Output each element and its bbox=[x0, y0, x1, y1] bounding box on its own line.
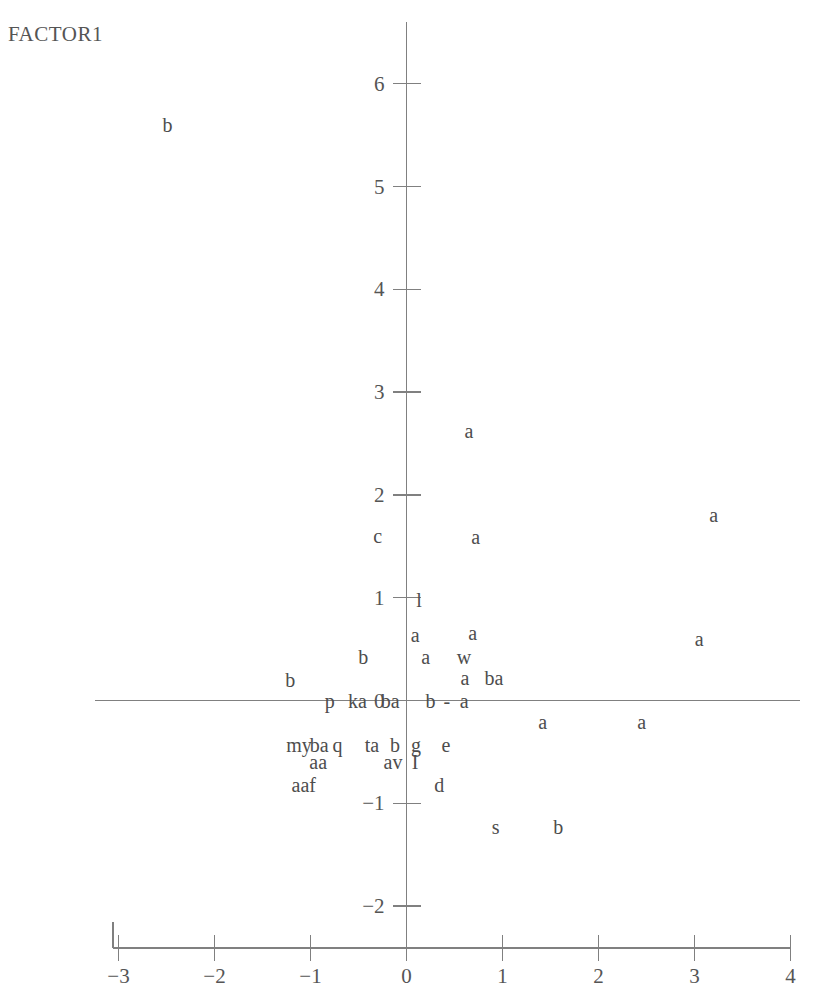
x-tick-label--1: −1 bbox=[299, 964, 321, 989]
data-point-label: q bbox=[332, 735, 342, 755]
data-point-label: a bbox=[695, 629, 704, 649]
y-tick-label--1: −1 bbox=[362, 791, 384, 816]
data-point-label: d bbox=[434, 775, 444, 795]
x-tick-label-1: 1 bbox=[497, 964, 508, 989]
data-point-label: ba bbox=[381, 691, 400, 711]
data-point-label: w bbox=[457, 647, 471, 667]
y-tick-label-5: 5 bbox=[374, 174, 385, 199]
y-tick-label-6: 6 bbox=[374, 71, 385, 96]
data-point-label: a bbox=[421, 647, 430, 667]
x-tick-label-3: 3 bbox=[689, 964, 700, 989]
data-point-label: ka bbox=[348, 691, 367, 711]
data-point-label: a bbox=[461, 668, 470, 688]
data-point-label: s bbox=[492, 817, 500, 837]
x-tick-label--2: −2 bbox=[203, 964, 225, 989]
data-point-label: ta bbox=[365, 735, 379, 755]
data-point-label: I bbox=[412, 752, 419, 772]
data-point-label: aa bbox=[309, 752, 327, 772]
data-point-label: e bbox=[441, 735, 450, 755]
data-point-label: aaf bbox=[292, 775, 316, 795]
y-tick-label-4: 4 bbox=[374, 277, 385, 302]
data-point-label: av bbox=[384, 752, 403, 772]
data-point-label: c bbox=[373, 526, 382, 546]
plot-axes bbox=[0, 0, 817, 1000]
data-point-label: a bbox=[460, 691, 469, 711]
x-tick-label-0: 0 bbox=[401, 964, 412, 989]
data-point-label: ba bbox=[484, 668, 503, 688]
y-tick-label-3: 3 bbox=[374, 380, 385, 405]
y-tick-label--2: −2 bbox=[362, 894, 384, 919]
data-point-label: b bbox=[162, 115, 172, 135]
y-tick-label-1: 1 bbox=[374, 585, 385, 610]
y-axis-title: FACTOR1 bbox=[8, 22, 103, 47]
data-point-label: a bbox=[464, 421, 473, 441]
data-point-label: a bbox=[468, 623, 477, 643]
data-point-label: p bbox=[325, 691, 335, 711]
x-tick-label-4: 4 bbox=[785, 964, 796, 989]
data-point-label: b bbox=[553, 817, 563, 837]
data-point-label: a bbox=[538, 712, 547, 732]
data-point-label: a bbox=[709, 505, 718, 525]
scatter-plot-canvas: FACTOR1 −2−10123456 −3−2−101234 baacalaa… bbox=[0, 0, 817, 1000]
data-point-label: b bbox=[358, 647, 368, 667]
x-tick-label-2: 2 bbox=[593, 964, 604, 989]
data-point-label: - bbox=[443, 691, 450, 711]
data-point-label: b bbox=[426, 691, 436, 711]
data-point-label: my bbox=[286, 735, 312, 755]
y-tick-label-2: 2 bbox=[374, 482, 385, 507]
data-point-label: a bbox=[411, 625, 420, 645]
data-point-label: l bbox=[416, 590, 422, 610]
data-point-label: a bbox=[637, 712, 646, 732]
data-point-label: b bbox=[285, 670, 295, 690]
data-point-label: a bbox=[471, 527, 480, 547]
x-tick-label--3: −3 bbox=[107, 964, 129, 989]
